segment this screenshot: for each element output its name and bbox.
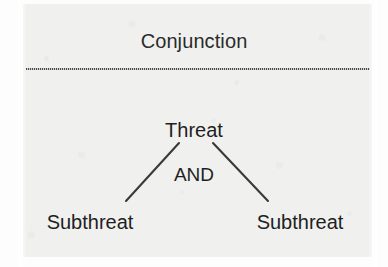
node-and-operator-label: AND	[0, 163, 388, 187]
figure-canvas: Conjunction Threat AND Subthreat Subthre…	[0, 0, 388, 267]
node-subthreat-right: Subthreat	[224, 210, 376, 234]
attack-tree: Threat AND Subthreat Subthreat	[0, 0, 388, 267]
node-threat-root: Threat	[0, 118, 388, 142]
node-subthreat-left: Subthreat	[14, 210, 166, 234]
